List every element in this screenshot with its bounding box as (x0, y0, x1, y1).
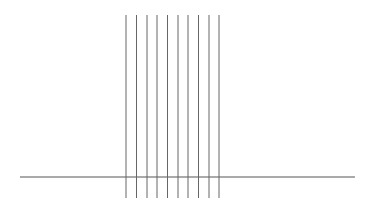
diagram-canvas (0, 0, 371, 201)
vertical-lines-group (126, 15, 219, 198)
